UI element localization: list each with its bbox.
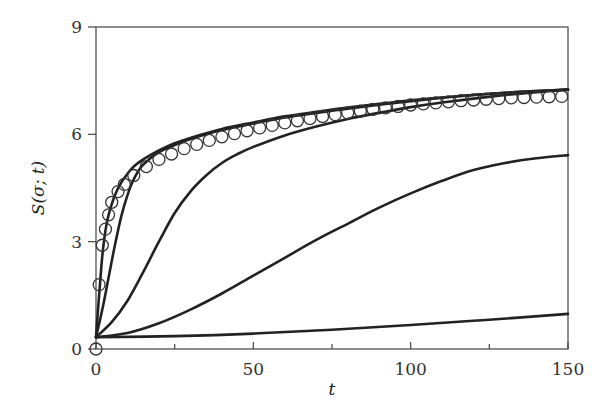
x-tick-label: 150 <box>552 359 584 379</box>
y-tick-label: 6 <box>71 124 82 144</box>
data-point-circle <box>266 119 278 131</box>
series-markers <box>90 90 568 355</box>
data-point-circle <box>191 138 203 150</box>
x-tick-label: 100 <box>394 359 426 379</box>
y-tick-label: 0 <box>71 339 82 359</box>
data-point-circle <box>178 143 190 155</box>
series-line-3 <box>96 90 568 338</box>
series-line-2 <box>96 90 568 338</box>
data-point-circle <box>203 134 215 146</box>
x-axis-label: t <box>329 379 336 399</box>
series-layer <box>90 90 568 355</box>
y-tick-label: 9 <box>71 17 82 37</box>
plot-frame <box>96 27 568 349</box>
series-line-5 <box>96 314 568 337</box>
chart: 050100150 0369 t S(σ; t) <box>0 0 609 418</box>
data-point-circle <box>241 125 253 137</box>
x-tick-label: 50 <box>243 359 265 379</box>
y-axis-label: S(σ; t) <box>28 161 48 215</box>
series-line-1 <box>96 90 568 338</box>
x-tick-label: 0 <box>91 359 102 379</box>
data-point-circle <box>254 122 266 134</box>
y-axis: 0369 <box>71 17 96 359</box>
data-point-circle <box>216 131 228 143</box>
data-point-circle <box>543 91 555 103</box>
data-point-circle <box>153 153 165 165</box>
series-line-4 <box>96 155 568 337</box>
y-tick-label: 3 <box>71 232 82 252</box>
data-point-circle <box>166 148 178 160</box>
data-point-circle <box>556 90 568 102</box>
x-axis: 050100150 <box>91 342 585 379</box>
data-point-circle <box>228 128 240 140</box>
